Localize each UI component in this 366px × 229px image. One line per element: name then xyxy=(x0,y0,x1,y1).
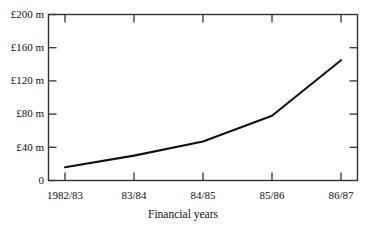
y-tick-label-0: 0 xyxy=(0,175,44,186)
y-axis-ticks-right xyxy=(350,48,358,148)
data-series-line xyxy=(65,60,341,167)
y-tick-label-160: £160 m xyxy=(0,42,44,53)
x-tick-label-84-85: 84/85 xyxy=(168,190,238,201)
x-axis-ticks xyxy=(65,173,341,181)
x-axis-ticks-top xyxy=(65,15,341,23)
y-axis-ticks xyxy=(49,15,57,181)
line-chart: £200 m £160 m £120 m £80 m £40 m 0 1982/… xyxy=(0,0,366,229)
x-axis-title: Financial years xyxy=(0,209,366,221)
x-tick-label-85-86: 85/86 xyxy=(237,190,307,201)
y-tick-label-80: £80 m xyxy=(0,108,44,119)
x-tick-label-1982-83: 1982/83 xyxy=(30,190,100,201)
y-tick-label-120: £120 m xyxy=(0,75,44,86)
y-tick-label-200: £200 m xyxy=(0,9,44,20)
x-tick-label-86-87: 86/87 xyxy=(306,190,366,201)
plot-frame xyxy=(49,15,358,181)
y-tick-label-40: £40 m xyxy=(0,142,44,153)
x-tick-label-83-84: 83/84 xyxy=(99,190,169,201)
